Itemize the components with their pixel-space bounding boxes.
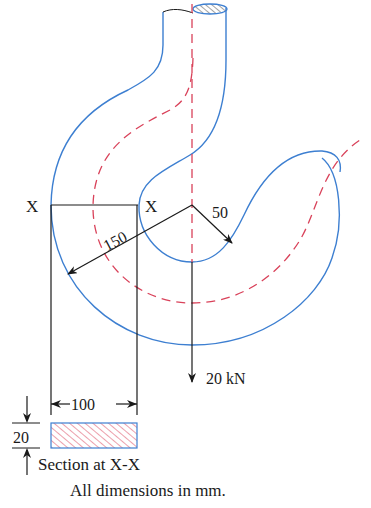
section-depth-label: 20 <box>13 429 29 446</box>
outer-radius-label: 150 <box>101 228 130 254</box>
hook-outline <box>51 8 340 345</box>
section-caption: Section at X-X <box>38 455 140 474</box>
section-width-dimension: 100 <box>51 396 137 413</box>
outer-radius-arrow <box>68 205 192 274</box>
section-mark-right: X <box>145 197 157 216</box>
section-rectangle <box>51 423 137 448</box>
shank-cut-section <box>163 4 227 14</box>
crane-hook-diagram: X X 50 150 20 kN 100 20 Section at X-X A… <box>0 0 371 508</box>
inner-radius-label: 50 <box>212 204 228 221</box>
units-note: All dimensions in mm. <box>70 481 226 500</box>
section-width-label: 100 <box>71 396 95 413</box>
load-label: 20 kN <box>206 370 246 387</box>
centroidal-axis <box>93 58 360 303</box>
section-mark-left: X <box>26 197 38 216</box>
section-depth-dimension: 20 <box>12 396 40 475</box>
